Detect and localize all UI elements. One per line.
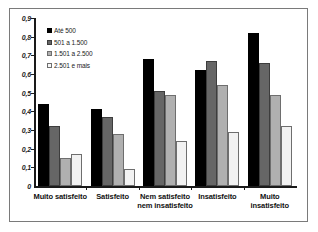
x-axis-separator xyxy=(244,186,245,190)
y-axis-tick-label: 0,5 xyxy=(22,89,31,96)
x-axis-category-label: Muitoinsatisfeito xyxy=(238,192,302,210)
category-label-line: Muito xyxy=(238,192,302,201)
x-axis-separator xyxy=(86,186,87,190)
bar[interactable] xyxy=(154,91,165,186)
bar[interactable] xyxy=(91,109,102,186)
bar[interactable] xyxy=(281,126,292,186)
legend-item[interactable]: 501 a 1.500 xyxy=(47,39,92,46)
y-axis-tick-label: 0 xyxy=(27,183,31,190)
y-axis-tick-label: 0,1 xyxy=(22,164,31,171)
chart-legend: Até 500501 a 1.5001.501 a 2.5002.501 e m… xyxy=(47,27,92,69)
y-axis-tick-label: 0,8 xyxy=(22,33,31,40)
bar[interactable] xyxy=(49,126,60,186)
legend-item[interactable]: 2.501 e mais xyxy=(47,62,92,69)
y-axis-tick-label: 0,3 xyxy=(22,127,31,134)
category-label-line: insatisfeito xyxy=(238,201,302,210)
y-axis-tick-label: 0,6 xyxy=(22,71,31,78)
legend-swatch-icon xyxy=(47,51,52,56)
bar[interactable] xyxy=(71,154,82,186)
legend-swatch-icon xyxy=(47,63,52,68)
bar[interactable] xyxy=(270,95,281,186)
legend-label: 501 a 1.500 xyxy=(54,39,87,46)
legend-label: Até 500 xyxy=(54,27,76,34)
bar[interactable] xyxy=(206,61,217,186)
x-axis-separator xyxy=(139,186,140,190)
bar[interactable] xyxy=(124,169,135,186)
bar-group xyxy=(139,18,191,186)
category-label-line: nem insatisfeito xyxy=(133,201,197,210)
bar-group xyxy=(244,18,296,186)
x-axis-line xyxy=(34,186,297,188)
bar[interactable] xyxy=(38,104,49,186)
bar[interactable] xyxy=(248,33,259,186)
chart-figure: 0,90,80,70,60,50,40,30,20,10 Muito satis… xyxy=(0,0,318,232)
bar[interactable] xyxy=(165,95,176,186)
x-axis-separator xyxy=(191,186,192,190)
bar[interactable] xyxy=(217,85,228,186)
legend-item[interactable]: 1.501 a 2.500 xyxy=(47,50,92,57)
bar[interactable] xyxy=(102,117,113,186)
legend-swatch-icon xyxy=(47,28,52,33)
bar[interactable] xyxy=(113,134,124,186)
legend-label: 1.501 a 2.500 xyxy=(54,50,92,57)
bar[interactable] xyxy=(195,70,206,186)
bar-group xyxy=(191,18,243,186)
bar-group xyxy=(86,18,138,186)
bar[interactable] xyxy=(60,158,71,186)
legend-swatch-icon xyxy=(47,40,52,45)
legend-label: 2.501 e mais xyxy=(54,62,90,69)
bar[interactable] xyxy=(259,63,270,186)
bar[interactable] xyxy=(228,132,239,186)
y-axis-tick-label: 0,9 xyxy=(22,15,31,22)
bar[interactable] xyxy=(143,59,154,186)
y-axis-tick-label: 0,4 xyxy=(22,108,31,115)
y-axis-tick-label: 0,2 xyxy=(22,145,31,152)
y-axis-tick-label: 0,7 xyxy=(22,52,31,59)
legend-item[interactable]: Até 500 xyxy=(47,27,92,34)
bar[interactable] xyxy=(176,141,187,186)
